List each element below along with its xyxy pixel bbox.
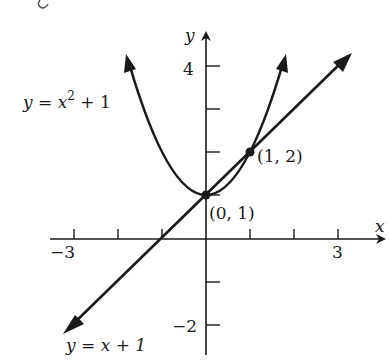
point-label-1-2: (1, 2) <box>257 146 303 166</box>
x-tick-label-neg3: −3 <box>50 242 75 262</box>
y-tick-label-4: 4 <box>183 59 194 79</box>
cropped-paren-fragment <box>38 0 48 8</box>
parabola-arrowhead-left <box>124 54 136 73</box>
y-axis-label: y <box>184 25 195 45</box>
parabola-eq-lhs: y = x <box>22 92 68 112</box>
parabola-arrowhead-right <box>276 54 288 73</box>
point-1-2 <box>246 148 255 157</box>
x-axis-label: x <box>375 216 385 236</box>
graph-figure: y x 4 −2 −3 3 (0, 1) (1, 2) y = x2 + 1 y… <box>0 0 389 360</box>
point-label-0-1: (0, 1) <box>209 203 255 223</box>
parabola-eq-rhs: + 1 <box>75 92 111 112</box>
x-tick-label-3: 3 <box>332 242 343 262</box>
parabola-equation-label: y = x2 + 1 <box>22 89 111 112</box>
line-equation-label: y = x + 1 <box>65 335 146 355</box>
point-0-1 <box>202 191 211 200</box>
coordinate-plane: y x 4 −2 −3 3 (0, 1) (1, 2) y = x2 + 1 y… <box>0 0 389 360</box>
parabola-eq-exponent: 2 <box>67 89 75 103</box>
svg-text:y = x2 + 1: y = x2 + 1 <box>22 89 111 112</box>
y-tick-label-neg2: −2 <box>172 316 197 336</box>
